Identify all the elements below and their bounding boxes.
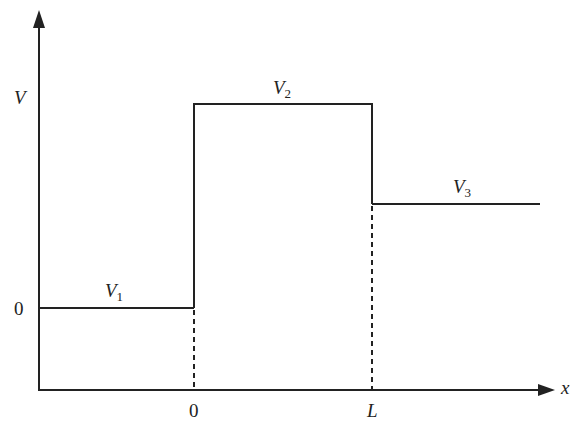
region-v1-label: V1 bbox=[105, 281, 123, 303]
x-axis-label: x bbox=[561, 378, 569, 397]
region-v2-label: V2 bbox=[273, 78, 291, 100]
x-tick-0: 0 bbox=[189, 401, 199, 420]
x-axis-arrow-icon bbox=[538, 384, 555, 396]
region-v3-label: V3 bbox=[453, 177, 471, 199]
y-zero-label: 0 bbox=[14, 299, 24, 318]
x-tick-L: L bbox=[367, 401, 378, 420]
y-axis-label: V bbox=[14, 88, 26, 107]
y-axis-arrow-icon bbox=[33, 10, 45, 28]
potential-diagram bbox=[0, 0, 580, 441]
